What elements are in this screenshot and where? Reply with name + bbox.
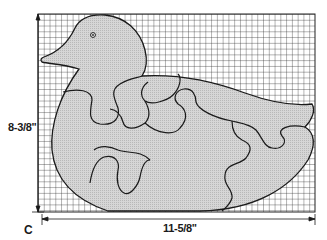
duck-puzzle-pattern xyxy=(0,0,327,240)
width-dimension-label: 11-5/8" xyxy=(160,222,200,234)
height-dimension-label: 8-3/8" xyxy=(8,121,37,133)
figure-letter-label: C xyxy=(24,223,33,237)
